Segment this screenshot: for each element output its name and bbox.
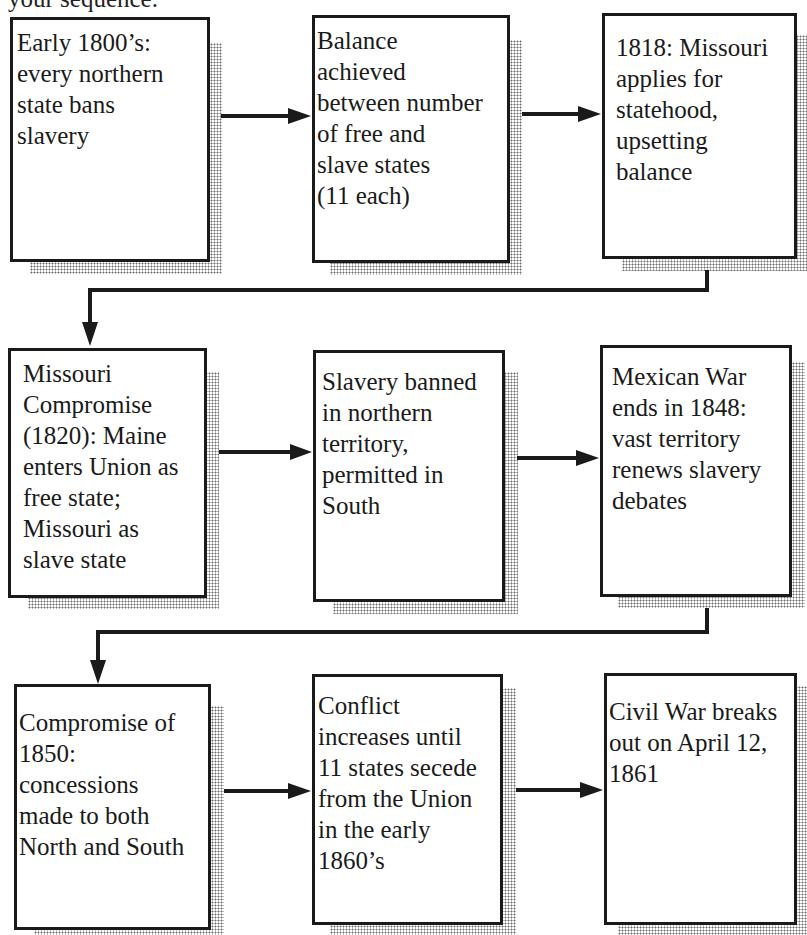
arrow-right-icon xyxy=(224,783,311,799)
flow-step-text: Balance achieved between number of free … xyxy=(317,25,507,211)
flow-step-3: 1818: Missouri applies for statehood, up… xyxy=(602,13,797,259)
flow-step-text: Mexican War ends in 1848: vast territory… xyxy=(612,361,789,516)
flow-step-7: Compromise of 1850: concessions made to … xyxy=(14,684,211,930)
arrow-return-icon xyxy=(82,270,707,346)
header-partial-text: your sequence. xyxy=(8,0,158,12)
flow-step-text: Slavery banned in northern territory, pe… xyxy=(322,366,502,521)
flow-step-text: Civil War breaks out on April 12, 1861 xyxy=(609,696,794,789)
flow-step-text: 1818: Missouri applies for statehood, up… xyxy=(616,32,794,187)
flow-step-8: Conflict increases until 11 states seced… xyxy=(312,674,503,925)
flow-step-2: Balance achieved between number of free … xyxy=(312,15,510,263)
flow-step-4: Missouri Compromise (1820): Maine enters… xyxy=(8,348,207,598)
arrow-right-icon xyxy=(219,444,312,460)
arrow-right-icon xyxy=(517,450,599,466)
flow-step-5: Slavery banned in northern territory, pe… xyxy=(313,350,505,602)
flow-step-9: Civil War breaks out on April 12, 1861 xyxy=(604,673,797,925)
arrow-right-icon xyxy=(221,108,311,124)
flow-step-text: Conflict increases until 11 states seced… xyxy=(318,690,500,876)
flow-step-text: Early 1800’s: every northern state bans … xyxy=(17,27,207,151)
flow-step-1: Early 1800’s: every northern state bans … xyxy=(10,17,210,262)
arrow-right-icon xyxy=(522,106,601,122)
flow-step-text: Missouri Compromise (1820): Maine enters… xyxy=(23,358,204,575)
arrow-right-icon xyxy=(516,782,603,798)
flow-step-text: Compromise of 1850: concessions made to … xyxy=(19,707,208,862)
flow-step-6: Mexican War ends in 1848: vast territory… xyxy=(600,345,792,597)
